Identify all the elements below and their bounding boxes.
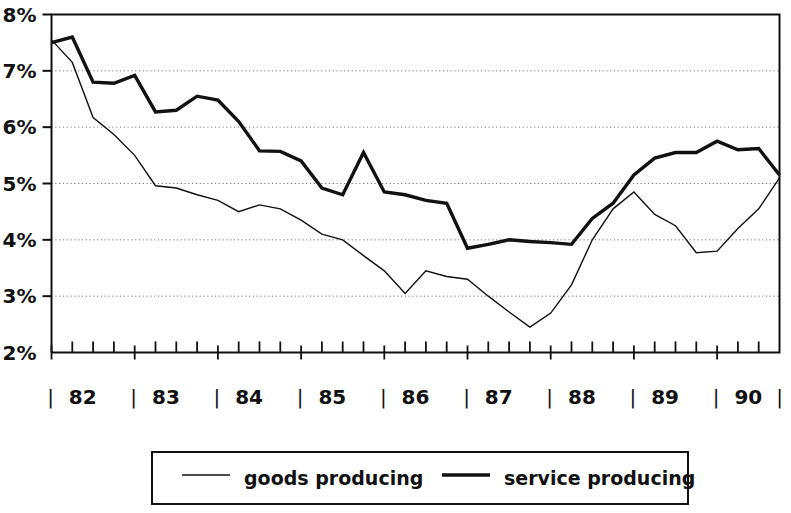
plot-frame bbox=[52, 15, 780, 353]
x-axis-separator: | bbox=[463, 385, 470, 409]
x-axis-separator: | bbox=[546, 385, 553, 409]
x-axis-year-label: 90 bbox=[734, 385, 762, 409]
y-axis-ticks bbox=[43, 15, 52, 297]
x-axis-year-label: 84 bbox=[235, 385, 263, 409]
series-line-goods-producing bbox=[52, 40, 780, 327]
x-axis-separator: | bbox=[630, 385, 637, 409]
line-chart: 2%3%4%5%6%7%8% 82|83|84|85|86|87|88|89|9… bbox=[0, 0, 791, 513]
x-axis-year-label: 89 bbox=[651, 385, 679, 409]
legend-label: service producing bbox=[504, 467, 695, 489]
x-axis-year-label: 87 bbox=[485, 385, 513, 409]
x-axis-year-label: 83 bbox=[152, 385, 180, 409]
x-axis-separator: | bbox=[47, 385, 54, 409]
y-axis-tick-label: 4% bbox=[3, 228, 37, 252]
y-axis-tick-label: 2% bbox=[3, 341, 37, 365]
x-axis-separator: | bbox=[380, 385, 387, 409]
gridlines bbox=[52, 71, 780, 296]
y-axis-tick-label: 3% bbox=[3, 284, 37, 308]
y-axis-tick-label: 6% bbox=[3, 115, 37, 139]
x-axis-labels: 82|83|84|85|86|87|88|89|90|| bbox=[47, 385, 783, 409]
x-axis-separator: | bbox=[713, 385, 720, 409]
x-axis-year-label: 85 bbox=[318, 385, 346, 409]
x-axis-separator: | bbox=[214, 385, 221, 409]
legend-label: goods producing bbox=[244, 467, 423, 489]
chart-figure: 2%3%4%5%6%7%8% 82|83|84|85|86|87|88|89|9… bbox=[0, 0, 791, 513]
axis-frame bbox=[52, 15, 780, 353]
chart-legend: goods producingservice producing bbox=[152, 452, 695, 504]
y-axis-labels: 2%3%4%5%6%7%8% bbox=[3, 3, 37, 365]
x-axis-separator: | bbox=[297, 385, 304, 409]
x-axis-separator: | bbox=[776, 385, 783, 409]
x-axis-year-label: 86 bbox=[402, 385, 430, 409]
x-axis-year-label: 88 bbox=[568, 385, 596, 409]
y-axis-tick-label: 7% bbox=[3, 59, 37, 83]
x-axis-year-label: 82 bbox=[69, 385, 97, 409]
y-axis-tick-label: 5% bbox=[3, 172, 37, 196]
data-series bbox=[52, 37, 780, 327]
x-axis-ticks bbox=[52, 342, 759, 360]
y-axis-tick-label: 8% bbox=[3, 3, 37, 27]
x-axis-separator: | bbox=[130, 385, 137, 409]
series-line-service-producing bbox=[52, 37, 780, 248]
